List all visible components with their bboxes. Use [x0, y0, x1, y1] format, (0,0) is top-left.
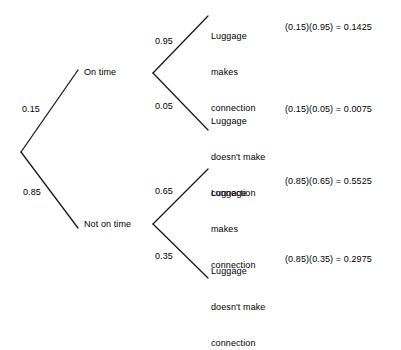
outcome-line-2: doesn't make: [211, 151, 265, 163]
outcome-line-1: Luggage: [211, 115, 265, 127]
outcome-label-not-on-time-misses: Luggage doesn't make connection: [211, 241, 265, 350]
node-label-not-on-time: Not on time: [84, 218, 131, 230]
node-label-on-time: On time: [84, 66, 116, 78]
outcome-line-3: connection: [211, 337, 265, 349]
equation-not-on-time-misses: (0.85)(0.35) = 0.2975: [285, 253, 372, 265]
probability-label-not-on-time-makes: 0.65: [155, 185, 173, 197]
equation-on-time-misses: (0.15)(0.05) = 0.0075: [285, 103, 372, 115]
probability-label-on-time-makes: 0.95: [155, 35, 173, 47]
probability-label-on-time: 0.15: [22, 103, 40, 115]
probability-label-not-on-time: 0.85: [23, 186, 41, 198]
outcome-line-1: Luggage: [211, 187, 256, 199]
outcome-line-2: makes: [211, 223, 256, 235]
outcome-line-1: Luggage: [211, 265, 265, 277]
outcome-line-2: makes: [211, 66, 256, 78]
outcome-line-1: Luggage: [211, 30, 256, 42]
equation-not-on-time-makes: (0.85)(0.65) = 0.5525: [285, 175, 372, 187]
probability-label-on-time-misses: 0.05: [155, 100, 173, 112]
equation-on-time-makes: (0.15)(0.95) = 0.1425: [285, 21, 372, 33]
probability-label-not-on-time-misses: 0.35: [155, 250, 173, 262]
outcome-line-2: doesn't make: [211, 301, 265, 313]
